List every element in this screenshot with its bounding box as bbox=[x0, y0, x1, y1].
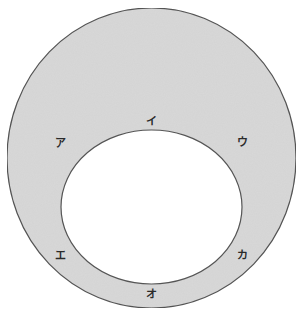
label-a: ア bbox=[50, 136, 70, 152]
ring-diagram bbox=[0, 0, 298, 320]
label-o: オ bbox=[141, 287, 161, 303]
label-ka: カ bbox=[232, 248, 252, 264]
label-e: エ bbox=[50, 248, 70, 264]
label-i: イ bbox=[141, 114, 161, 130]
inner-ellipse bbox=[61, 130, 242, 284]
label-u: ウ bbox=[232, 135, 252, 151]
